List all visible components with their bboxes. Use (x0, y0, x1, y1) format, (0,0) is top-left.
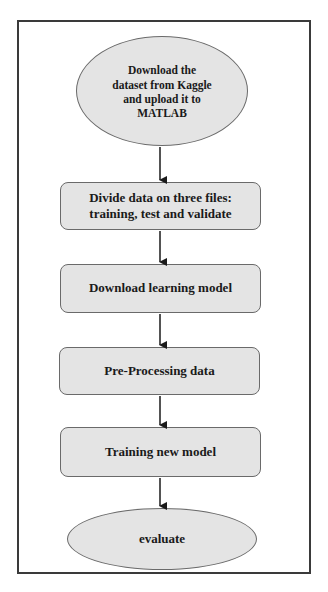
flow-arrows (0, 0, 328, 592)
